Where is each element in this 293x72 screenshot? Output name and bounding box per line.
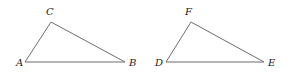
- triangles-diagram: A B C D E F: [0, 0, 293, 72]
- triangle-abc: A B C: [15, 6, 136, 68]
- vertex-label-e: E: [267, 57, 276, 68]
- vertex-label-b: B: [128, 57, 136, 68]
- triangle-def-outline: [166, 22, 264, 62]
- vertex-label-c: C: [46, 6, 54, 17]
- triangle-def: D E F: [154, 6, 276, 68]
- triangle-abc-outline: [25, 22, 125, 62]
- vertex-label-a: A: [15, 57, 23, 68]
- vertex-label-f: F: [184, 6, 193, 17]
- vertex-label-d: D: [154, 57, 163, 68]
